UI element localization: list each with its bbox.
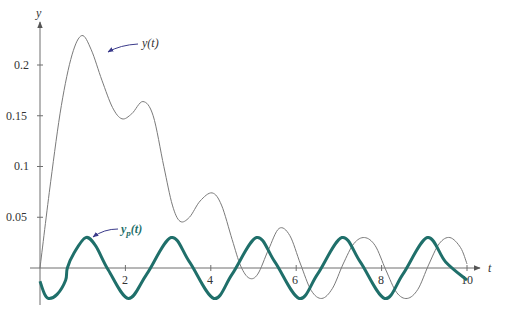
x-tick-label-2: 2	[122, 273, 128, 287]
x-tick-label-8: 8	[378, 273, 384, 287]
yp-label-tail: (t)	[131, 222, 142, 236]
yp-annotation-arrow	[93, 229, 118, 237]
yp-annotation-label: yp(t)	[119, 222, 142, 238]
y-axis-label: y	[35, 6, 42, 20]
x-tick-label-4: 4	[207, 273, 213, 287]
x-axis-label: t	[488, 261, 492, 275]
y-tick-label-0.2: 0.2	[14, 58, 29, 72]
x-tick-label-6: 6	[292, 273, 298, 287]
y-tick-label-0.05: 0.05	[6, 210, 27, 224]
y-annotation-arrow	[108, 44, 138, 52]
y-tick-label-0.1: 0.1	[14, 159, 29, 173]
y-tick-label-0.15: 0.15	[6, 109, 27, 123]
chart: 2 4 6 8 10 0.05 0.1 0.15 0.2 t y y(t) yp…	[0, 0, 509, 319]
y-annotation-label: y(t)	[141, 36, 159, 50]
